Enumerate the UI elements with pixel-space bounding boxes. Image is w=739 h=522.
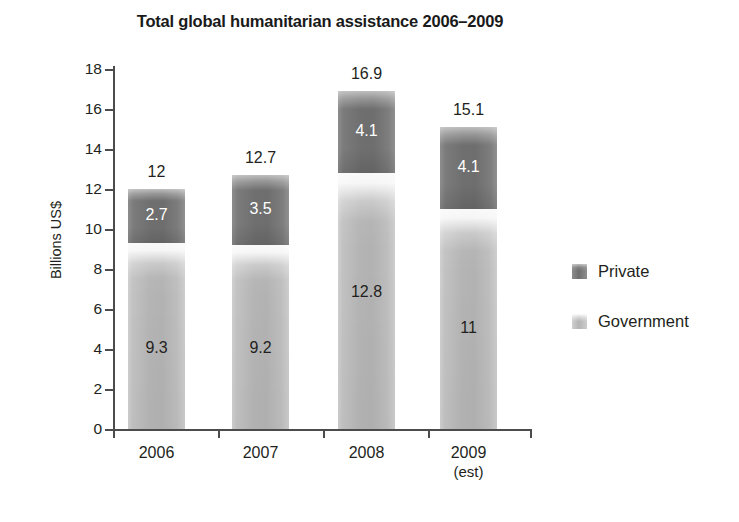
legend-item-private[interactable]: Private — [572, 262, 689, 280]
y-tick-12 — [105, 189, 113, 191]
y-axis-title: Billions US$ — [48, 160, 64, 320]
value-label-government-2006: 9.3 — [128, 339, 185, 357]
y-tick-label-16: 16 — [58, 100, 102, 118]
y-tick-label-4: 4 — [58, 340, 102, 358]
x-label-2006: 2006 — [128, 444, 185, 462]
y-tick-label-14: 14 — [58, 140, 102, 158]
x-label-text: 2006 — [139, 444, 175, 461]
legend-item-government[interactable]: Government — [572, 312, 689, 330]
segment-government-2008[interactable] — [338, 173, 395, 429]
x-label-2008: 2008 — [338, 444, 395, 462]
chart-title: Total global humanitarian assistance 200… — [0, 12, 640, 31]
chart-figure: Total global humanitarian assistance 200… — [0, 0, 739, 522]
legend-label-private: Private — [598, 262, 649, 281]
value-label-government-2007: 9.2 — [232, 339, 289, 357]
x-label-2007: 2007 — [232, 444, 289, 462]
y-tick-label-8: 8 — [58, 260, 102, 278]
y-tick-label-6: 6 — [58, 300, 102, 318]
y-tick-6 — [105, 309, 113, 311]
y-tick-16 — [105, 109, 113, 111]
value-label-private-2008: 4.1 — [338, 122, 395, 140]
legend-label-government: Government — [598, 312, 689, 331]
y-tick-0 — [105, 429, 113, 431]
y-tick-label-10: 10 — [58, 220, 102, 238]
y-tick-14 — [105, 149, 113, 151]
y-tick-10 — [105, 229, 113, 231]
total-label-2007: 12.7 — [232, 149, 289, 167]
x-tick-1 — [218, 429, 220, 438]
y-tick-4 — [105, 349, 113, 351]
segment-government-2006[interactable] — [128, 243, 185, 429]
y-axis-line — [113, 66, 115, 430]
y-tick-label-12: 12 — [58, 180, 102, 198]
value-label-government-2009: 11 — [440, 319, 497, 337]
chart-legend: Private Government — [572, 262, 689, 362]
value-label-private-2009: 4.1 — [440, 158, 497, 176]
private-swatch-icon — [572, 264, 587, 279]
x-tick-3 — [428, 429, 430, 438]
y-tick-label-0: 0 — [58, 420, 102, 438]
total-label-2008: 16.9 — [338, 65, 395, 83]
x-label-text: 2009 — [451, 444, 487, 461]
y-tick-label-2: 2 — [58, 380, 102, 398]
total-label-2006: 12 — [128, 163, 185, 181]
total-label-2009: 15.1 — [440, 101, 497, 119]
y-tick-2 — [105, 389, 113, 391]
value-label-private-2007: 3.5 — [232, 200, 289, 218]
y-tick-18 — [105, 69, 113, 71]
x-label-text: 2008 — [349, 444, 385, 461]
x-label-text: 2007 — [243, 444, 279, 461]
x-tick-4 — [530, 429, 532, 438]
value-label-government-2008: 12.8 — [338, 283, 395, 301]
value-label-private-2006: 2.7 — [128, 206, 185, 224]
y-tick-label-18: 18 — [58, 60, 102, 78]
government-swatch-icon — [572, 314, 587, 329]
x-label-2009: 2009(est) — [440, 444, 497, 480]
x-tick-2 — [323, 429, 325, 438]
x-tick-0 — [113, 429, 115, 438]
segment-government-2007[interactable] — [232, 245, 289, 429]
x-label-sublabel: (est) — [440, 463, 497, 480]
y-tick-8 — [105, 269, 113, 271]
